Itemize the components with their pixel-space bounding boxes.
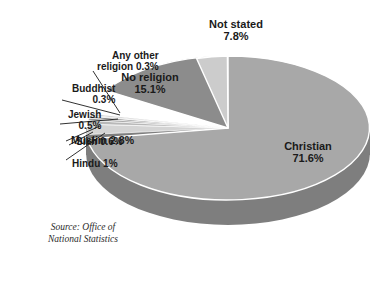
slice-label-sikh-text: Sikh 0.6% bbox=[76, 136, 123, 147]
source-note: Source: Office of National Statistics bbox=[48, 222, 118, 246]
slice-label-any-other-religion: Any other religion 0.3% bbox=[97, 50, 159, 72]
slice-label-buddhist-name: Buddhist bbox=[72, 83, 115, 94]
slice-label-jewish: Jewish 0.5% bbox=[68, 109, 101, 131]
slice-label-christian-name: Christian bbox=[284, 140, 332, 152]
source-note-line2: National Statistics bbox=[48, 234, 118, 246]
slice-label-any-other-religion-name: Any other bbox=[97, 50, 159, 61]
pie-chart-figure: Not stated 7.8% No religion 15.1% Christ… bbox=[0, 0, 383, 281]
slice-label-sikh: Sikh 0.6% bbox=[76, 136, 123, 147]
slice-label-jewish-value: 0.5% bbox=[68, 120, 101, 131]
slice-label-not-stated-value: 7.8% bbox=[209, 30, 263, 42]
source-note-line1: Source: Office of bbox=[48, 222, 118, 234]
slice-label-no-religion-value: 15.1% bbox=[121, 83, 178, 95]
slice-label-buddhist-value: 0.3% bbox=[72, 94, 115, 105]
slice-label-no-religion: No religion 15.1% bbox=[121, 71, 178, 96]
slice-label-christian: Christian 71.6% bbox=[284, 140, 332, 165]
slice-label-not-stated: Not stated 7.8% bbox=[209, 18, 263, 43]
slice-label-buddhist: Buddhist 0.3% bbox=[72, 83, 115, 105]
slice-label-any-other-religion-value: religion 0.3% bbox=[97, 61, 159, 72]
slice-label-hindu: Hindu 1% bbox=[72, 158, 118, 169]
slice-label-hindu-text: Hindu 1% bbox=[72, 158, 118, 169]
slice-label-not-stated-name: Not stated bbox=[209, 18, 263, 30]
slice-label-christian-value: 71.6% bbox=[284, 152, 332, 164]
slice-label-jewish-name: Jewish bbox=[68, 109, 101, 120]
slice-label-no-religion-name: No religion bbox=[121, 71, 178, 83]
